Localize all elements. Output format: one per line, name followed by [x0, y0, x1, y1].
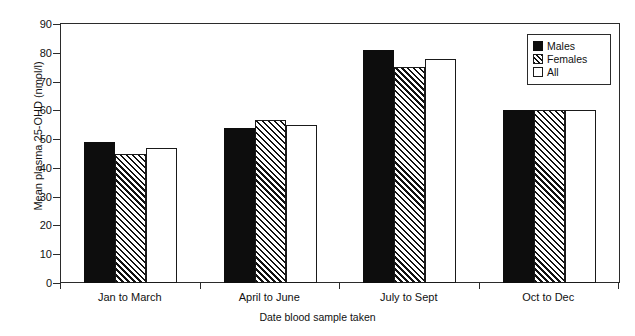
chart-legend: Males Females All [527, 34, 611, 85]
y-axis-tick-labels: 0102030405060708090 [0, 23, 60, 285]
y-tick-label: 90 [40, 18, 52, 30]
chart-figure: Mean plasma 25-OHD (nmol/l) 010203040506… [0, 0, 635, 336]
y-tick-mark [53, 139, 60, 140]
y-tick-label: 50 [40, 133, 52, 145]
legend-item-all: All [533, 66, 605, 78]
y-tick-label: 20 [40, 219, 52, 231]
bar-all [286, 125, 317, 283]
x-tick-label: Oct to Dec [522, 291, 574, 303]
bar-females [534, 110, 565, 283]
bar-group [340, 24, 480, 283]
bar-females [115, 154, 146, 284]
bar-males [84, 142, 115, 283]
bar-all [565, 110, 596, 283]
y-tick-label: 70 [40, 76, 52, 88]
legend-label-females: Females [547, 53, 587, 65]
x-tick-mark [618, 283, 619, 289]
y-tick-label: 10 [40, 248, 52, 260]
y-tick-label: 80 [40, 47, 52, 59]
x-tick-mark [479, 283, 480, 289]
legend-swatch-all-icon [533, 67, 543, 77]
x-tick-label: July to Sept [380, 291, 437, 303]
y-tick-mark [53, 225, 60, 226]
x-tick-mark [60, 283, 61, 289]
x-tick-label: April to June [239, 291, 300, 303]
x-tick-mark [200, 283, 201, 289]
y-tick-mark [53, 110, 60, 111]
x-axis-title: Date blood sample taken [0, 311, 635, 323]
legend-item-females: Females [533, 53, 605, 65]
y-tick-mark [53, 283, 60, 284]
y-tick-label: 0 [46, 277, 52, 289]
legend-label-males: Males [547, 40, 575, 52]
x-axis-tick-marks [60, 283, 621, 290]
bar-females [255, 120, 286, 283]
legend-swatch-males-icon [533, 41, 543, 51]
bar-males [224, 128, 255, 283]
y-tick-label: 30 [40, 191, 52, 203]
y-tick-mark [53, 53, 60, 54]
bar-group [201, 24, 341, 283]
y-tick-mark [53, 254, 60, 255]
y-tick-label: 40 [40, 162, 52, 174]
x-tick-mark [339, 283, 340, 289]
legend-swatch-females-icon [533, 54, 543, 64]
y-tick-mark [53, 82, 60, 83]
y-tick-mark [53, 168, 60, 169]
bar-females [394, 67, 425, 283]
bar-all [425, 59, 456, 283]
bar-all [146, 148, 177, 283]
x-tick-label: Jan to March [98, 291, 162, 303]
y-tick-mark [53, 24, 60, 25]
legend-item-males: Males [533, 40, 605, 52]
legend-label-all: All [547, 66, 559, 78]
bar-group [61, 24, 201, 283]
y-tick-label: 60 [40, 104, 52, 116]
x-axis-tick-labels: Jan to MarchApril to JuneJuly to SeptOct… [60, 291, 620, 309]
bar-males [363, 50, 394, 283]
bar-males [503, 110, 534, 283]
y-tick-mark [53, 197, 60, 198]
